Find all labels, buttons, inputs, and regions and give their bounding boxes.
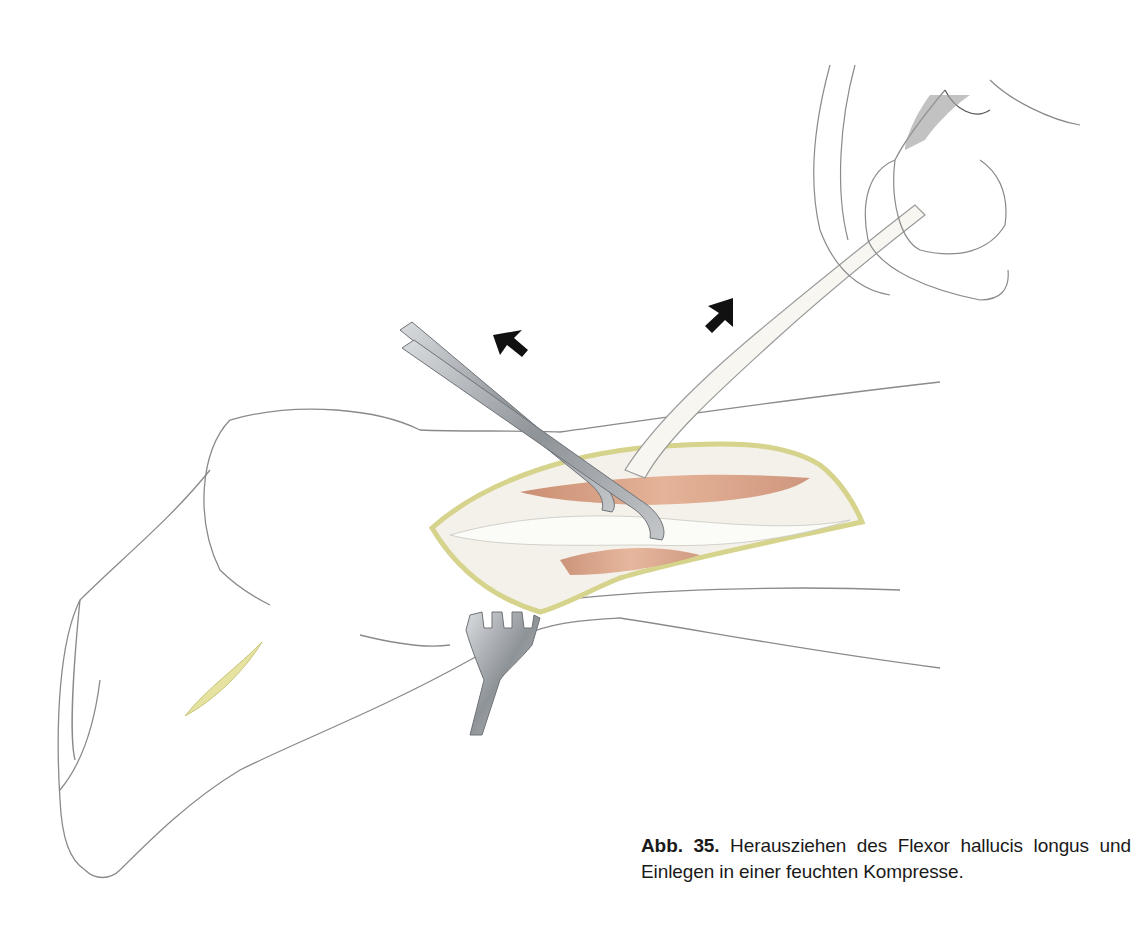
caption-line-1: Herausziehen des Flexor hallucis longus (730, 835, 1089, 856)
figure-label: Abb. 35. (641, 835, 720, 856)
tendon (625, 205, 925, 478)
surgical-illustration (0, 0, 1148, 942)
retractor (466, 612, 540, 735)
direction-arrow-right (705, 298, 733, 333)
figure-caption: Abb. 35. Herausziehen des Flexor halluci… (641, 833, 1131, 885)
small-incision (185, 642, 262, 716)
direction-arrow-left (493, 330, 528, 357)
figure: Abb. 35. Herausziehen des Flexor halluci… (0, 0, 1148, 942)
